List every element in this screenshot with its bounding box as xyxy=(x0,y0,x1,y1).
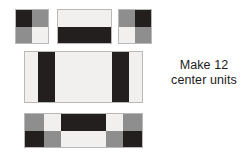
caption-line-1: Make 12 xyxy=(162,58,246,73)
patch-cell xyxy=(135,9,152,27)
diagram-canvas: Make 12 center units xyxy=(0,0,249,152)
patch-cell xyxy=(32,27,49,45)
patch-cell xyxy=(106,131,123,149)
instruction-caption: Make 12 center units xyxy=(162,58,246,88)
patch-cell xyxy=(24,51,38,103)
patch-cell xyxy=(123,113,143,131)
patch-cell xyxy=(57,9,112,27)
patch-cell xyxy=(38,51,55,103)
two-bar-unit-center-top xyxy=(57,9,112,44)
patch-cell xyxy=(106,113,123,131)
patch-cell xyxy=(57,27,112,45)
patch-cell xyxy=(44,113,61,131)
patch-cell xyxy=(55,51,112,103)
patch-cell xyxy=(61,131,106,149)
patch-cell xyxy=(135,27,152,45)
patch-cell xyxy=(15,27,32,45)
patch-cell xyxy=(118,27,135,45)
patch-cell xyxy=(118,9,135,27)
patch-cell xyxy=(24,113,44,131)
patch-cell xyxy=(112,51,129,103)
patch-cell xyxy=(24,131,44,149)
striped-band-unit xyxy=(24,51,143,103)
checker-band-unit xyxy=(24,113,143,148)
four-patch-unit-right xyxy=(118,9,152,44)
patch-cell xyxy=(44,131,61,149)
patch-cell xyxy=(61,113,106,131)
patch-cell xyxy=(123,131,143,149)
patch-cell xyxy=(129,51,143,103)
patch-cell xyxy=(15,9,32,27)
four-patch-unit-left xyxy=(15,9,49,44)
patch-cell xyxy=(32,9,49,27)
caption-line-2: center units xyxy=(162,73,246,88)
